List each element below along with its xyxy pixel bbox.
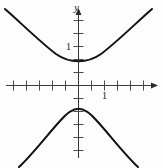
y-axis-label: y (74, 2, 79, 13)
x-axis-arrow-icon (151, 83, 158, 89)
y-axis-tick-label-one: 1 (66, 42, 71, 52)
hyperbola-figure: y 1 1 (0, 0, 163, 168)
x-axis-tick-label-one: 1 (102, 91, 107, 101)
plot-canvas (0, 0, 163, 168)
